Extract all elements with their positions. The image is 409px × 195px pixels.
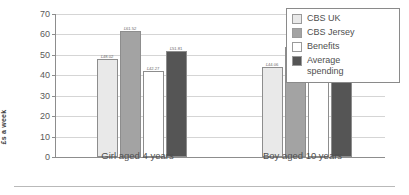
y-tick-label: 70 xyxy=(40,9,50,19)
y-tick-label: 50 xyxy=(40,50,50,60)
legend-label: CBS Jersey xyxy=(307,27,355,38)
tick-mark xyxy=(52,75,56,76)
y-tick-label: 60 xyxy=(40,29,50,39)
legend-label: CBS UK xyxy=(307,13,341,24)
y-tick-label: 10 xyxy=(40,132,50,142)
bar-value-label: £42.27 xyxy=(147,66,160,71)
y-axis-title: £s a week xyxy=(0,92,7,162)
legend-swatch-icon xyxy=(292,28,302,38)
tick-mark xyxy=(52,55,56,56)
bar-benefits-0: £42.27 xyxy=(143,71,164,157)
y-tick-label: 30 xyxy=(40,91,50,101)
legend-swatch-icon xyxy=(292,14,302,24)
bar-cbs-uk-0: £48.02 xyxy=(97,59,118,157)
bar-value-label: £51.81 xyxy=(170,46,183,51)
bar-cbs-jersey-0: £61.52 xyxy=(120,31,141,157)
bar-cbs-uk-1: £44.06 xyxy=(262,67,283,157)
y-axis-line xyxy=(55,14,56,157)
footer-divider xyxy=(14,186,395,187)
tick-mark xyxy=(52,14,56,15)
y-tick-label: 20 xyxy=(40,111,50,121)
legend-label: Benefits xyxy=(307,41,340,52)
y-tick-label: 40 xyxy=(40,70,50,80)
bar-value-label: £44.06 xyxy=(266,62,279,67)
legend-label: Average spending xyxy=(307,55,344,77)
legend-item-average-spending[interactable]: Average spending xyxy=(292,55,394,77)
bar-chart-figure: £s a week 010203040506070 £48.02£61.52£4… xyxy=(0,0,409,195)
bar-value-label: £48.02 xyxy=(101,54,114,59)
y-tick-label: 0 xyxy=(45,152,50,162)
tick-mark xyxy=(52,96,56,97)
category-label-0: Girl aged 4 years xyxy=(55,150,220,161)
tick-mark xyxy=(52,34,56,35)
chart-legend: CBS UKCBS JerseyBenefitsAverage spending xyxy=(286,8,400,83)
legend-item-benefits[interactable]: Benefits xyxy=(292,41,394,52)
legend-swatch-icon xyxy=(292,56,302,66)
bar-value-label: £61.52 xyxy=(124,26,137,31)
legend-item-cbs-uk[interactable]: CBS UK xyxy=(292,13,394,24)
bar-average-spending-0: £51.81 xyxy=(166,51,187,157)
tick-mark xyxy=(52,116,56,117)
legend-item-cbs-jersey[interactable]: CBS Jersey xyxy=(292,27,394,38)
legend-swatch-icon xyxy=(292,42,302,52)
tick-mark xyxy=(52,137,56,138)
category-label-1: Boy aged 10 years xyxy=(220,150,385,161)
